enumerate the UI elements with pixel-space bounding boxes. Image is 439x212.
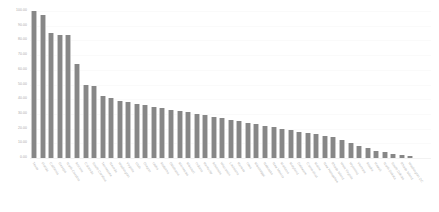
bar-column[interactable] xyxy=(244,11,253,158)
bar[interactable] xyxy=(305,133,311,158)
bar[interactable] xyxy=(142,105,148,158)
bar[interactable] xyxy=(313,134,319,158)
bar[interactable] xyxy=(185,112,191,158)
bar[interactable] xyxy=(74,64,80,158)
bar-column[interactable] xyxy=(269,11,278,158)
bar[interactable] xyxy=(125,102,131,158)
bar[interactable] xyxy=(296,132,302,158)
bar-column[interactable] xyxy=(329,11,338,158)
bar[interactable] xyxy=(91,86,97,158)
bar-column[interactable] xyxy=(372,11,381,158)
bar-column[interactable] xyxy=(338,11,347,158)
bar[interactable] xyxy=(57,35,63,158)
bar[interactable] xyxy=(262,126,268,158)
bar-column[interactable] xyxy=(56,11,65,158)
bar-column[interactable] xyxy=(141,11,150,158)
bar[interactable] xyxy=(382,152,388,158)
bar[interactable] xyxy=(117,101,123,158)
bar-column[interactable] xyxy=(321,11,330,158)
bar-column[interactable] xyxy=(406,11,415,158)
bar-column[interactable] xyxy=(355,11,364,158)
bar[interactable] xyxy=(245,123,251,158)
bar[interactable] xyxy=(83,85,89,159)
bar-column[interactable] xyxy=(312,11,321,158)
bar[interactable] xyxy=(211,117,217,158)
bar-column[interactable] xyxy=(124,11,133,158)
bar-column[interactable] xyxy=(175,11,184,158)
bar[interactable] xyxy=(253,124,259,158)
bar[interactable] xyxy=(194,114,200,158)
x-axis-label-cell: Mississippi xyxy=(252,160,261,212)
bar-column[interactable] xyxy=(115,11,124,158)
bar[interactable] xyxy=(339,140,345,158)
bar-column[interactable] xyxy=(90,11,99,158)
bar[interactable] xyxy=(373,151,379,158)
bar[interactable] xyxy=(399,155,405,158)
bar[interactable] xyxy=(390,154,396,158)
bar-column[interactable] xyxy=(346,11,355,158)
bar-column[interactable] xyxy=(133,11,142,158)
bar-column[interactable] xyxy=(295,11,304,158)
bar-column[interactable] xyxy=(30,11,39,158)
bar[interactable] xyxy=(279,129,285,158)
x-axis-label-cell: California xyxy=(47,160,56,212)
bar[interactable] xyxy=(219,118,225,158)
bar-column[interactable] xyxy=(218,11,227,158)
bar[interactable] xyxy=(365,148,371,158)
bar-series xyxy=(30,11,431,158)
bar[interactable] xyxy=(288,130,294,158)
bar-column[interactable] xyxy=(167,11,176,158)
bar-column[interactable] xyxy=(398,11,407,158)
bar[interactable] xyxy=(48,33,54,158)
bar-column[interactable] xyxy=(278,11,287,158)
bar[interactable] xyxy=(31,11,37,158)
bar[interactable] xyxy=(348,143,354,158)
bar-column[interactable] xyxy=(261,11,270,158)
bar[interactable] xyxy=(228,120,234,158)
bar[interactable] xyxy=(202,115,208,158)
bar-column[interactable] xyxy=(73,11,82,158)
bar-column[interactable] xyxy=(64,11,73,158)
bar-column[interactable] xyxy=(158,11,167,158)
bar-column[interactable] xyxy=(81,11,90,158)
bar[interactable] xyxy=(356,146,362,158)
bar[interactable] xyxy=(65,35,71,158)
bar[interactable] xyxy=(40,15,46,158)
bar-column[interactable] xyxy=(98,11,107,158)
bar-column[interactable] xyxy=(184,11,193,158)
bar-column[interactable] xyxy=(192,11,201,158)
bar-column[interactable] xyxy=(252,11,261,158)
bar-column[interactable] xyxy=(39,11,48,158)
bar-column[interactable] xyxy=(227,11,236,158)
bar[interactable] xyxy=(168,110,174,159)
x-axis-label-cell: South Carolina xyxy=(90,160,99,212)
x-axis-labels: TexasFloridaCaliforniaGeorgiaNorth Carol… xyxy=(30,160,431,212)
bar[interactable] xyxy=(177,111,183,158)
bar-column[interactable] xyxy=(150,11,159,158)
bar-column[interactable] xyxy=(201,11,210,158)
bar-column[interactable] xyxy=(107,11,116,158)
x-axis-label-cell: Florida xyxy=(39,160,48,212)
bar-column[interactable] xyxy=(363,11,372,158)
bar[interactable] xyxy=(134,104,140,158)
bar-column[interactable] xyxy=(389,11,398,158)
x-axis-label-cell: New Hampshire xyxy=(321,160,330,212)
bar[interactable] xyxy=(407,156,413,158)
bar[interactable] xyxy=(271,127,277,158)
x-axis-label-cell: Colorado xyxy=(81,160,90,212)
bar-column[interactable] xyxy=(209,11,218,158)
bar[interactable] xyxy=(151,107,157,158)
bar-column[interactable] xyxy=(304,11,313,158)
bar[interactable] xyxy=(159,108,165,158)
bar[interactable] xyxy=(236,121,242,158)
bar-column[interactable] xyxy=(47,11,56,158)
bar[interactable] xyxy=(100,96,106,158)
bar[interactable] xyxy=(108,98,114,158)
bar-column[interactable] xyxy=(380,11,389,158)
x-axis-label-cell: Alaska xyxy=(363,160,372,212)
bar[interactable] xyxy=(322,136,328,158)
bar-column[interactable] xyxy=(286,11,295,158)
bar-column[interactable] xyxy=(235,11,244,158)
x-axis-label-cell: Idaho xyxy=(150,160,159,212)
bar[interactable] xyxy=(330,137,336,158)
